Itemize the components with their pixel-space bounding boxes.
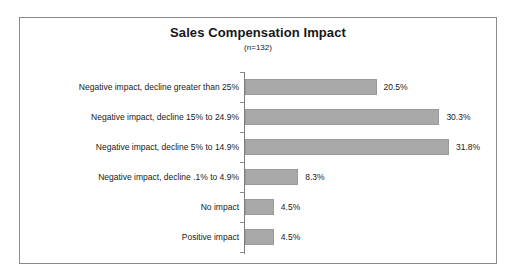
bar[interactable]	[245, 199, 274, 215]
bar-row[interactable]: Negative impact, decline greater than 25…	[20, 72, 498, 102]
chart-title: Sales Compensation Impact	[20, 25, 496, 40]
category-label: No impact	[201, 202, 239, 212]
bar-with-value: 4.5%	[245, 229, 300, 245]
bar-row[interactable]: No impact4.5%	[20, 192, 498, 222]
bar-value-label: 20.5%	[384, 82, 408, 92]
bar[interactable]	[245, 229, 274, 245]
bar-with-value: 20.5%	[245, 79, 408, 95]
bar[interactable]	[245, 139, 449, 155]
bar[interactable]	[245, 79, 377, 95]
chart-subtitle: (n=132)	[20, 43, 496, 52]
bar[interactable]	[245, 169, 298, 185]
plot-area: Negative impact, decline greater than 25…	[20, 68, 498, 260]
bar[interactable]	[245, 109, 439, 125]
bar-row[interactable]: Negative impact, decline 5% to 14.9%31.8…	[20, 132, 498, 162]
category-label: Negative impact, decline .1% to 4.9%	[98, 172, 239, 182]
category-label: Negative impact, decline greater than 25…	[79, 82, 239, 92]
bar-row[interactable]: Positive impact4.5%	[20, 222, 498, 252]
chart-frame: Sales Compensation Impact (n=132) Negati…	[19, 17, 497, 264]
bar-value-label: 31.8%	[456, 142, 480, 152]
bar-value-label: 4.5%	[281, 202, 300, 212]
bar-row[interactable]: Negative impact, decline .1% to 4.9%8.3%	[20, 162, 498, 192]
bar-with-value: 8.3%	[245, 169, 325, 185]
bar-value-label: 30.3%	[446, 112, 470, 122]
axis-tick	[240, 252, 244, 253]
bar-row[interactable]: Negative impact, decline 15% to 24.9%30.…	[20, 102, 498, 132]
bar-with-value: 31.8%	[245, 139, 480, 155]
bar-with-value: 30.3%	[245, 109, 470, 125]
bar-value-label: 8.3%	[305, 172, 324, 182]
category-label: Negative impact, decline 15% to 24.9%	[91, 112, 239, 122]
category-label: Positive impact	[182, 232, 239, 242]
bar-with-value: 4.5%	[245, 199, 300, 215]
category-label: Negative impact, decline 5% to 14.9%	[96, 142, 239, 152]
bar-value-label: 4.5%	[281, 232, 300, 242]
